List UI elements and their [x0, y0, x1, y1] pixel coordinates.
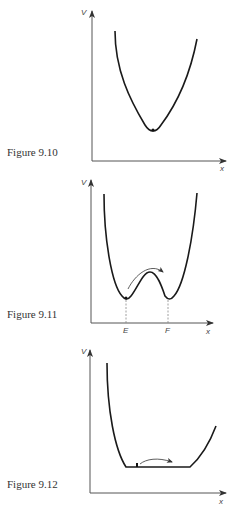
- x-axis-label: x: [205, 327, 211, 336]
- x-axis-label: x: [218, 497, 224, 506]
- double-well-curve: [104, 193, 197, 299]
- figure-9-12: V x: [81, 347, 226, 506]
- flat-well-curve: [107, 363, 216, 467]
- y-axis-label: V: [81, 347, 87, 356]
- potential-curve: [115, 31, 197, 131]
- figure-9-10: V x: [81, 8, 226, 173]
- motion-arrow: [140, 459, 172, 464]
- figure-caption-9-10: Figure 9.10: [7, 146, 58, 158]
- point-label-e: E: [123, 326, 129, 335]
- y-axis-label: V: [81, 178, 87, 187]
- figure-caption-9-12: Figure 9.12: [7, 478, 58, 490]
- figure-9-11: V x E F: [81, 178, 213, 336]
- particle-dot: [124, 296, 127, 299]
- x-axis-label: x: [219, 164, 225, 173]
- figure-caption-9-11: Figure 9.11: [7, 308, 57, 320]
- point-label-f: F: [165, 326, 171, 335]
- y-axis-label: V: [81, 8, 87, 17]
- particle-dot: [136, 463, 138, 467]
- particle-dot: [151, 128, 154, 131]
- figures-canvas: V x V x E F V x: [0, 0, 234, 512]
